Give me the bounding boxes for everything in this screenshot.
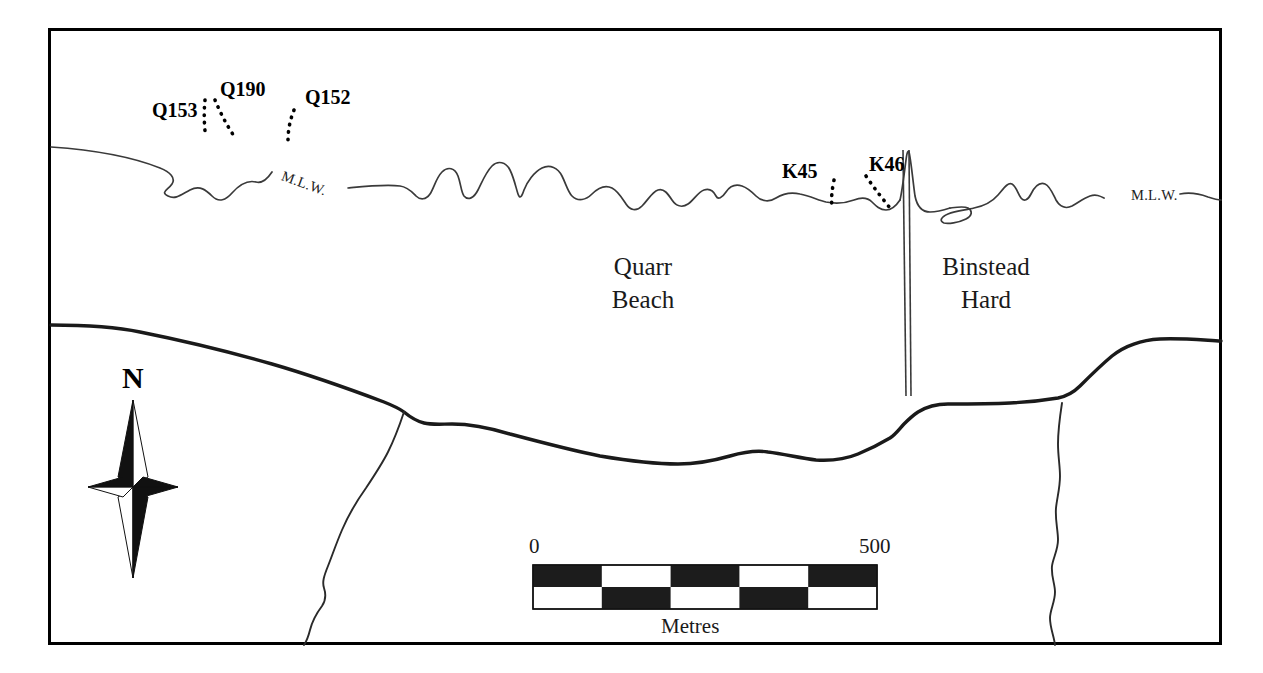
place-label-line: Hard xyxy=(921,283,1051,316)
site-label-q190: Q190 xyxy=(220,79,266,99)
scale-bar-cell xyxy=(671,565,740,587)
scale-bar-cell xyxy=(602,587,671,609)
site-label-q153: Q153 xyxy=(152,100,198,120)
scale-bar-cell xyxy=(533,565,602,587)
map-figure: Q153 Q190 Q152 K45 K46 M.L.W. M.L.W. Qua… xyxy=(0,0,1263,673)
scale-bar-max-label: 500 xyxy=(859,536,891,557)
scale-bar-cell xyxy=(808,565,877,587)
place-label-line: Quarr xyxy=(588,250,698,283)
mlw-label-right: M.L.W. xyxy=(1131,188,1178,203)
site-label-k46: K46 xyxy=(869,154,905,174)
compass-north-label: N xyxy=(122,363,144,393)
place-label-binstead-hard: Binstead Hard xyxy=(921,250,1051,316)
place-label-quarr-beach: Quarr Beach xyxy=(588,250,698,316)
scale-bar-graphic xyxy=(533,565,877,609)
scale-bar-unit-label: Metres xyxy=(661,616,719,637)
place-label-line: Beach xyxy=(588,283,698,316)
site-label-q152: Q152 xyxy=(305,87,351,107)
site-label-k45: K45 xyxy=(782,161,818,181)
place-label-line: Binstead xyxy=(921,250,1051,283)
scale-bar-cell xyxy=(739,587,808,609)
scale-bar-min-label: 0 xyxy=(529,536,540,557)
